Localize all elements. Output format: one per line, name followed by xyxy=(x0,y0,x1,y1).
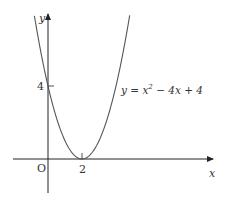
parabola-curve xyxy=(34,15,129,159)
graph-figure: y x O 4 2 y = x2 − 4x + 4 xyxy=(0,0,233,203)
y-axis-label: y xyxy=(39,13,45,24)
tick-label-x-2: 2 xyxy=(79,164,86,175)
x-axis-label: x xyxy=(209,168,215,179)
equation-label: y = x2 − 4x + 4 xyxy=(121,85,203,96)
origin-label: O xyxy=(37,163,46,174)
tick-label-y-4: 4 xyxy=(37,81,44,92)
graph-svg xyxy=(0,0,233,203)
equation-prefix: y = x xyxy=(121,84,148,96)
equation-suffix: − 4x + 4 xyxy=(153,84,203,96)
equation-exponent: 2 xyxy=(148,83,152,91)
